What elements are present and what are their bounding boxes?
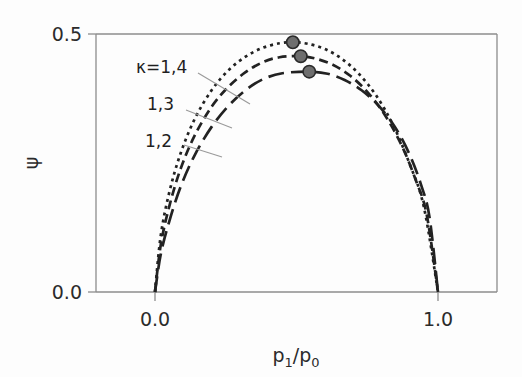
annotation-label-kappa-1-2: 1,2 <box>145 131 172 151</box>
x-tick-label-right: 1.0 <box>423 308 453 330</box>
peak-marker-3 <box>303 65 315 77</box>
x-axis-title-p0-sub: 0 <box>311 355 319 370</box>
y-tick-label-upper: 0.5 <box>52 23 82 45</box>
chart-canvas: 0.5 0.0 0.0 1.0 ψ p1/p0 <box>0 0 522 377</box>
figure-container: 0.5 0.0 0.0 1.0 ψ p1/p0 <box>0 0 522 377</box>
x-axis-title-p1-sub: 1 <box>285 355 293 370</box>
x-axis-title-p1-base: p <box>272 344 284 366</box>
x-axis-title-p0-base: p <box>299 344 311 366</box>
annotation-label-kappa-1-3: 1,3 <box>147 94 174 114</box>
y-axis-title: ψ <box>20 157 42 170</box>
peak-marker-1 <box>287 36 299 48</box>
x-tick-label-left: 0.0 <box>140 308 170 330</box>
peak-marker-2 <box>295 50 307 62</box>
annotation-label-kappa-1-4: κ=1,4 <box>136 57 187 77</box>
y-tick-label-lower: 0.0 <box>52 281 82 303</box>
